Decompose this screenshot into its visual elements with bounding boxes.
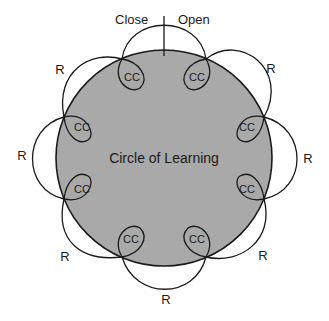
cc-node-label: CC (239, 122, 255, 133)
center-label: Circle of Learning (109, 151, 219, 165)
circle-of-learning-diagram: Close Open Circle of Learning CC CC CC C… (0, 0, 329, 321)
r-petal-label: R (258, 249, 267, 262)
cc-node-label: CC (123, 234, 139, 245)
cc-node-label: CC (74, 184, 90, 195)
r-petal-label: R (17, 149, 26, 162)
r-petal-label: R (161, 293, 170, 306)
close-label: Close (115, 13, 148, 26)
cc-node-label: CC (189, 72, 205, 83)
r-petal-label: R (55, 63, 64, 76)
r-petal-label: R (60, 250, 69, 263)
cc-node-label: CC (239, 184, 255, 195)
r-petal-label: R (266, 62, 275, 75)
cc-node-label: CC (124, 72, 140, 83)
cc-node-label: CC (74, 122, 90, 133)
r-petal-label: R (303, 152, 312, 165)
open-label: Open (178, 13, 210, 26)
cc-node-label: CC (189, 234, 205, 245)
